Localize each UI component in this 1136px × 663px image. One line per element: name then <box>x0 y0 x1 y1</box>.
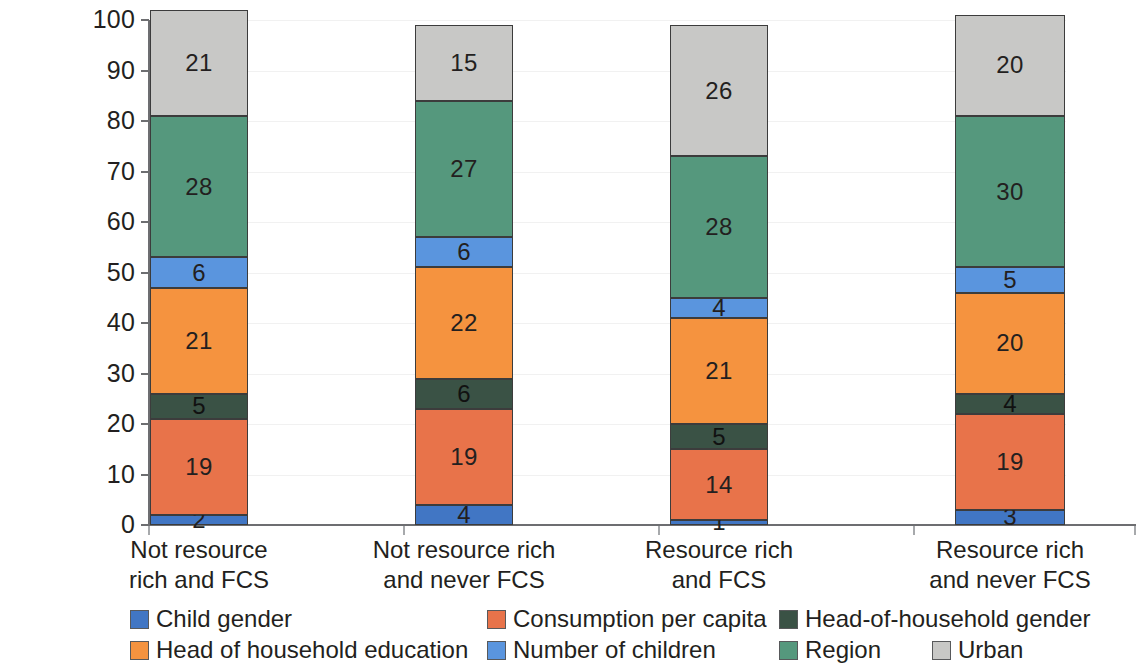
bar-segment-value-label: 21 <box>705 359 732 383</box>
x-axis-category-label-line: Resource rich <box>880 535 1136 565</box>
bar-segment: 3 <box>955 510 1065 525</box>
y-axis-tick-label-0: 0 <box>5 512 135 537</box>
legend-swatch-region <box>779 641 798 660</box>
bar-segment: 1 <box>670 520 768 525</box>
bar-segment-value-label: 20 <box>996 331 1023 355</box>
gridline-70 <box>150 172 1066 173</box>
bar-segment: 6 <box>150 257 248 287</box>
legend-item-label: Child gender <box>156 607 292 631</box>
legend-item-label: Number of children <box>513 638 716 662</box>
y-axis-tick-100 <box>141 19 149 21</box>
bar-segment: 15 <box>415 25 513 101</box>
x-axis-tick-2 <box>658 526 660 535</box>
bar-segment: 28 <box>150 116 248 257</box>
legend-item-label: Head of household education <box>156 638 468 662</box>
bar-segment: 21 <box>150 288 248 394</box>
bar-segment-value-label: 5 <box>192 394 206 418</box>
bar-segment: 19 <box>415 409 513 505</box>
legend-item[interactable]: Head-of-household gender <box>779 607 1091 631</box>
x-axis-category-label-line: Not resource <box>69 535 329 565</box>
bar-segment-value-label: 6 <box>192 261 206 285</box>
legend-item[interactable]: Head of household education <box>130 638 468 662</box>
x-axis-tick-3 <box>913 526 915 535</box>
bar-segment-value-label: 14 <box>705 473 732 497</box>
y-axis-tick-label-100: 100 <box>5 7 135 32</box>
bar-segment-value-label: 4 <box>1003 392 1017 416</box>
x-axis-tick-4 <box>1134 526 1136 535</box>
bar-segment-value-label: 21 <box>185 329 212 353</box>
x-axis-category-label-line: and FCS <box>589 565 849 595</box>
bar-segment: 14 <box>670 449 768 520</box>
x-axis-category-label-line: and never FCS <box>334 565 594 595</box>
bar-segment-value-label: 26 <box>705 79 732 103</box>
gridline-30 <box>150 374 1066 375</box>
x-axis-category-label: Resource richand FCS <box>589 535 849 595</box>
legend-item[interactable]: Child gender <box>130 607 292 631</box>
bar-segment: 22 <box>415 267 513 378</box>
bar-segment: 6 <box>415 237 513 267</box>
bar-segment-value-label: 27 <box>450 157 477 181</box>
bar-segment: 4 <box>955 394 1065 414</box>
gridline-20 <box>150 424 1066 425</box>
legend-swatch-head-of-household-gender <box>779 610 798 629</box>
bar-segment: 30 <box>955 116 1065 268</box>
y-axis-tick-label-10: 10 <box>5 462 135 487</box>
legend-item[interactable]: Region <box>779 638 881 662</box>
bar-segment-value-label: 5 <box>712 425 726 449</box>
bar-segment: 27 <box>415 101 513 237</box>
y-axis-tick-label-30: 30 <box>5 361 135 386</box>
legend-item-label: Urban <box>958 638 1023 662</box>
y-axis-tick-50 <box>141 272 149 274</box>
y-axis-tick-label-50: 50 <box>5 260 135 285</box>
x-axis-category-label-line: and never FCS <box>880 565 1136 595</box>
y-axis-tick-70 <box>141 171 149 173</box>
y-axis-tick-label-40: 40 <box>5 310 135 335</box>
gridline-80 <box>150 121 1066 122</box>
y-axis-tick-10 <box>141 474 149 476</box>
bar-segment: 20 <box>955 15 1065 116</box>
x-axis-tick-1 <box>403 526 405 535</box>
bar-segment: 5 <box>955 267 1065 292</box>
bar-segment: 21 <box>670 318 768 424</box>
y-axis-tick-label-20: 20 <box>5 411 135 436</box>
legend-item-label: Head-of-household gender <box>805 607 1091 631</box>
bar-segment-value-label: 28 <box>185 175 212 199</box>
y-axis-tick-20 <box>141 423 149 425</box>
bar-segment: 19 <box>955 414 1065 510</box>
x-axis-category-label-line: Resource rich <box>589 535 849 565</box>
legend-item[interactable]: Urban <box>932 638 1023 662</box>
bar-segment-value-label: 4 <box>457 503 471 527</box>
bar-segment-value-label: 21 <box>185 51 212 75</box>
legend-item[interactable]: Number of children <box>487 638 716 662</box>
gridline-60 <box>150 222 1066 223</box>
x-axis-category-label: Resource richand never FCS <box>880 535 1136 595</box>
bar-segment: 5 <box>150 394 248 419</box>
bar-stack: 41962262715 <box>415 20 513 525</box>
bar-segment-value-label: 6 <box>457 240 471 264</box>
bar-segment-value-label: 5 <box>1003 268 1017 292</box>
bar-segment-value-label: 19 <box>996 450 1023 474</box>
gridline-90 <box>150 71 1066 72</box>
bar-segment-value-label: 30 <box>996 180 1023 204</box>
x-axis-category-label-line: rich and FCS <box>69 565 329 595</box>
bar-segment-value-label: 4 <box>712 296 726 320</box>
legend-swatch-head-of-household-education <box>130 641 149 660</box>
bar-segment-value-label: 22 <box>450 311 477 335</box>
y-axis-tick-30 <box>141 373 149 375</box>
bar-segment: 2 <box>150 515 248 525</box>
y-axis-tick-90 <box>141 70 149 72</box>
gridline-50 <box>150 273 1066 274</box>
x-axis-category-label: Not resource richand never FCS <box>334 535 594 595</box>
gridline-100 <box>150 20 1066 21</box>
bar-segment-value-label: 19 <box>185 455 212 479</box>
legend-swatch-consumption-per-capita <box>487 610 506 629</box>
legend-item[interactable]: Consumption per capita <box>487 607 766 631</box>
y-axis-tick-label-60: 60 <box>5 209 135 234</box>
y-axis-tick-40 <box>141 322 149 324</box>
bar-segment: 28 <box>670 156 768 297</box>
bar-segment: 5 <box>670 424 768 449</box>
bar-segment: 19 <box>150 419 248 515</box>
legend-swatch-child-gender <box>130 610 149 629</box>
bar-segment-value-label: 20 <box>996 53 1023 77</box>
